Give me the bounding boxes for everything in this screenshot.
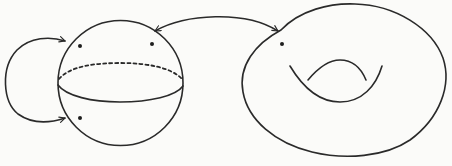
sphere-equator-back — [59, 63, 182, 79]
diagram-canvas — [0, 0, 452, 166]
self-gluing-arrow-icon — [5, 38, 65, 121]
torus-hole-lower — [290, 66, 382, 102]
torus — [242, 4, 446, 156]
marked-point-icon — [78, 116, 82, 120]
sphere — [58, 21, 183, 146]
marked-point-icon — [280, 42, 284, 46]
marked-point-icon — [150, 42, 154, 46]
map-arrow-icon — [155, 17, 278, 31]
sphere-equator-front — [58, 85, 183, 102]
torus-hole-upper — [308, 60, 366, 80]
torus-outline — [242, 4, 446, 156]
sphere-outline — [58, 21, 183, 146]
diagram-figure: Sphere with three marked points and glui… — [0, 0, 452, 166]
marked-point-icon — [78, 44, 82, 48]
